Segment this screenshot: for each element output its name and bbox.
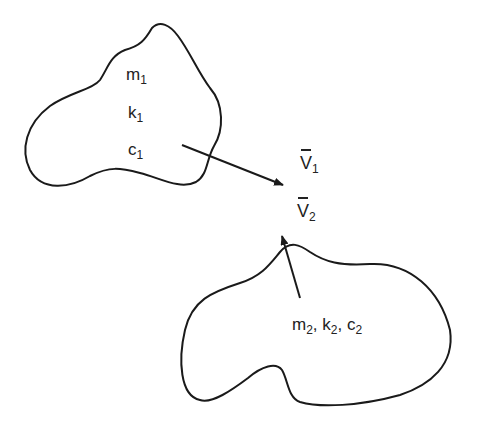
label-base: c	[128, 140, 137, 159]
label-base: V	[300, 153, 312, 173]
label-subscript: 1	[137, 111, 144, 125]
label-subscript: 2	[306, 323, 313, 337]
separator: ,	[313, 315, 322, 334]
vector-v1-label: V1	[300, 154, 319, 175]
label-subscript: 2	[331, 323, 338, 337]
label-base: m	[292, 315, 306, 334]
label-subscript: 1	[137, 148, 144, 162]
diagram-canvas	[0, 0, 480, 430]
overbar	[298, 197, 308, 199]
vector-v2-label: V2	[297, 202, 316, 223]
body-1-stiffness-label: k1	[128, 104, 143, 124]
vector-v1-arrow	[182, 145, 283, 185]
overbar	[301, 149, 311, 151]
body-1-damping-label: c1	[128, 141, 143, 161]
label-subscript: 2	[309, 210, 316, 224]
label-subscript: 1	[140, 73, 147, 87]
label-subscript: 2	[355, 323, 362, 337]
label-base: V	[297, 201, 309, 221]
body-1-mass-label: m1	[126, 66, 147, 86]
separator: ,	[338, 315, 347, 334]
label-subscript: 1	[312, 162, 319, 176]
label-base: k	[322, 315, 331, 334]
label-base: k	[128, 103, 137, 122]
body-1-outline	[25, 24, 221, 186]
body-2-properties-label: m2, k2, c2	[292, 316, 362, 336]
label-base: m	[126, 65, 140, 84]
